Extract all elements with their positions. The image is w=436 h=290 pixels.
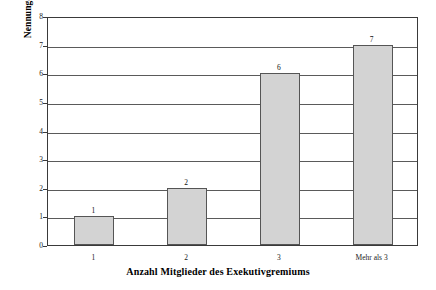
bar-value-label: 2 — [166, 178, 206, 187]
y-tick-label: 8 — [21, 13, 43, 21]
y-tick-label: 1 — [21, 213, 43, 221]
x-axis-title: Anzahl Mitglieder des Exekutivgremiums — [0, 266, 436, 277]
bar-value-label: 1 — [73, 206, 113, 215]
y-tick-label: 5 — [21, 99, 43, 107]
bar — [167, 188, 207, 245]
bar — [353, 45, 393, 245]
y-axis-ticks: 012345678 — [18, 0, 43, 290]
y-tick-label: 0 — [21, 242, 43, 250]
bar — [260, 73, 300, 245]
bar-chart: Nennungen [N=16] 012345678 123Mehr als 3… — [0, 0, 436, 290]
y-tick-mark — [43, 246, 47, 247]
x-tick-label: 2 — [141, 253, 231, 262]
y-tick-label: 2 — [21, 185, 43, 193]
x-tick-label: 1 — [48, 253, 138, 262]
y-tick-label: 4 — [21, 128, 43, 136]
x-tick-label: 3 — [234, 253, 324, 262]
y-tick-label: 7 — [21, 42, 43, 50]
y-tick-label: 6 — [21, 70, 43, 78]
x-tick-label: Mehr als 3 — [327, 253, 417, 262]
bar-value-label: 6 — [259, 63, 299, 72]
y-tick-label: 3 — [21, 156, 43, 164]
bar — [74, 216, 114, 245]
bar-value-label: 7 — [352, 35, 392, 44]
